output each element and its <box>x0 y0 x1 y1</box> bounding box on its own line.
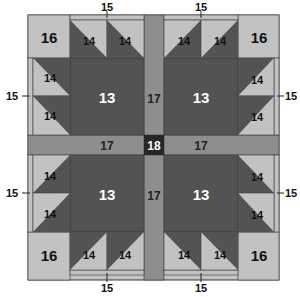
triangle-label: 14 <box>251 209 264 221</box>
triangle-label: 14 <box>214 35 227 47</box>
callout-label: 15 <box>285 187 297 199</box>
triangle-label: 14 <box>178 249 191 261</box>
triangle-label: 14 <box>44 72 57 84</box>
triangle-label: 14 <box>178 35 191 47</box>
sashing-vertical-bottom <box>144 155 164 280</box>
callout-label: 15 <box>101 1 113 13</box>
center-square-label: 13 <box>193 89 210 106</box>
sashing-label: 17 <box>194 139 208 153</box>
callout-label: 15 <box>285 90 297 102</box>
corner-label: 16 <box>251 247 268 264</box>
triangle-label: 14 <box>251 111 264 123</box>
triangle-label: 14 <box>44 208 57 220</box>
triangle-label: 14 <box>119 249 132 261</box>
corner-label: 16 <box>251 29 268 46</box>
center-square-label: 13 <box>99 89 116 106</box>
sashing-horizontal-left <box>28 135 144 155</box>
triangle-label: 14 <box>83 249 96 261</box>
triangle-label: 14 <box>44 170 57 182</box>
center-square-label: 13 <box>193 186 210 203</box>
sashing-label: 17 <box>147 189 161 203</box>
triangle-label: 14 <box>251 74 264 86</box>
triangle-label: 14 <box>251 171 264 183</box>
sashing-label: 17 <box>147 92 161 106</box>
callout-label: 15 <box>6 90 18 102</box>
triangle-label: 14 <box>83 35 96 47</box>
corner-label: 16 <box>41 247 58 264</box>
quilt-diagram: 15 15 15 15 15 15 15 15 16 16 16 16 13 1… <box>0 0 300 297</box>
callout-label: 15 <box>6 187 18 199</box>
sashing-vertical-top <box>144 15 164 135</box>
callout-label: 15 <box>195 1 207 13</box>
sashing-label: 17 <box>100 139 114 153</box>
center-label: 18 <box>147 139 161 153</box>
sashing-horizontal-right <box>164 135 279 155</box>
triangle-label: 14 <box>119 35 132 47</box>
center-square-label: 13 <box>99 186 116 203</box>
triangle-label: 14 <box>214 249 227 261</box>
callout-label: 15 <box>101 282 113 294</box>
triangle-label: 14 <box>44 110 57 122</box>
callout-label: 15 <box>195 282 207 294</box>
corner-label: 16 <box>41 29 58 46</box>
